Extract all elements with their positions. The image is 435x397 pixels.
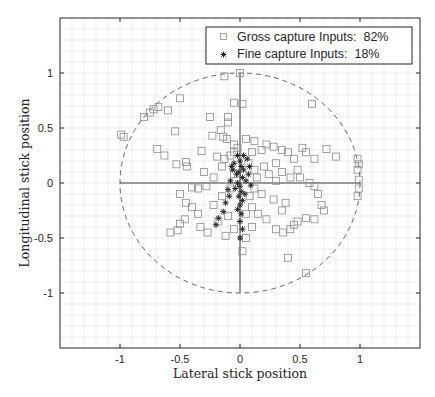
fine-point: [235, 206, 241, 212]
y-tick-label: 0: [47, 177, 53, 189]
x-tick-label: 0: [237, 353, 243, 365]
fine-point: [237, 219, 243, 225]
y-tick-label: -1: [43, 287, 53, 299]
legend: Gross capture Inputs: 82% Fine capture I…: [206, 27, 412, 64]
fine-point: [220, 209, 226, 215]
fine-point: [235, 153, 241, 159]
fine-point: [238, 211, 244, 217]
fine-point: [223, 200, 229, 206]
fine-point: [233, 171, 239, 177]
fine-point: [232, 186, 238, 192]
fine-point: [225, 187, 231, 193]
fine-point: [237, 235, 243, 241]
x-axis-title: Lateral stick position: [173, 366, 307, 381]
fine-point: [248, 182, 254, 188]
legend-label-fine: Fine capture Inputs: 18%: [237, 47, 379, 61]
x-tick-label: -1: [115, 353, 125, 365]
y-tick-labels: 10.50-0.5-1: [34, 67, 53, 299]
fine-point: [226, 193, 232, 199]
x-tick-label: 0.5: [292, 353, 307, 365]
fine-point: [213, 222, 219, 228]
asterisk-marker-icon: [221, 52, 227, 58]
fine-point: [236, 193, 242, 199]
fine-point: [242, 191, 248, 197]
y-tick-label: -0.5: [34, 232, 53, 244]
scatter-chart: -1-0.500.51 10.50-0.5-1 Lateral stick po…: [0, 0, 435, 397]
fine-point: [247, 164, 253, 170]
fine-point: [241, 153, 247, 159]
legend-label-gross: Gross capture Inputs: 82%: [237, 30, 388, 44]
y-axis-title: Longitudinal stick position: [17, 99, 32, 268]
fine-point: [237, 158, 243, 164]
x-tick-label: -0.5: [171, 353, 190, 365]
x-tick-labels: -1-0.500.51: [115, 353, 363, 365]
y-tick-label: 1: [47, 67, 53, 79]
fine-point: [229, 164, 235, 170]
y-tick-label: 0.5: [38, 122, 53, 134]
fine-point: [239, 226, 245, 232]
fine-point: [227, 178, 233, 184]
x-tick-label: 1: [357, 353, 363, 365]
fine-point: [245, 171, 251, 177]
fine-point: [215, 215, 221, 221]
fine-point: [243, 178, 249, 184]
fine-point: [241, 167, 247, 173]
